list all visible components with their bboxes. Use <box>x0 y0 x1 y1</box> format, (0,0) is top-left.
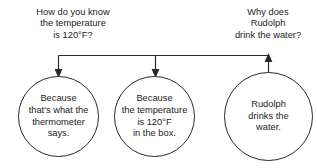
answer-thermometer-line-1: Because <box>29 93 89 105</box>
answer-rudolph-drinks-line-3: water. <box>248 122 288 134</box>
answer-thermometer-text: Because that's what the thermometer says… <box>29 93 89 139</box>
answer-thermometer-line-4: says. <box>29 128 89 140</box>
answer-temperature-box-text: Because the temperature is 120°F in the … <box>122 93 188 139</box>
answer-thermometer-line-2: that's what the <box>29 105 89 117</box>
arrowhead-up-rudolph <box>265 53 273 62</box>
answer-rudolph-drinks-text: Rudolph drinks the water. <box>248 99 288 134</box>
answer-temperature-box-line-4: in the box. <box>122 128 188 140</box>
answer-temperature-box-circle: Because the temperature is 120°F in the … <box>114 76 195 157</box>
answer-temperature-box-line-1: Because <box>122 93 188 105</box>
answer-thermometer-line-3: thermometer <box>29 117 89 129</box>
answer-temperature-box-line-3: is 120°F <box>122 117 188 129</box>
answer-rudolph-drinks-line-2: drinks the <box>248 111 288 123</box>
answer-thermometer-circle: Because that's what the thermometer says… <box>18 76 99 157</box>
answer-temperature-box-line-2: the temperature <box>122 105 188 117</box>
answer-rudolph-drinks-circle: Rudolph drinks the water. <box>224 72 313 161</box>
answer-rudolph-drinks-line-1: Rudolph <box>248 99 288 111</box>
flow-diagram: How do you know the temperature is 120°F… <box>0 0 317 168</box>
